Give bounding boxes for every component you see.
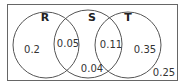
set-label-s: S: [88, 11, 96, 24]
set-label-r: R: [41, 11, 50, 24]
venn-diagram: R S T 0.2 0.05 0.11 0.35 0.04 0.25: [0, 0, 184, 84]
region-s-only: 0.04: [81, 63, 103, 74]
set-label-t: T: [124, 11, 132, 24]
region-r-and-s: 0.05: [57, 38, 79, 49]
region-t-only: 0.35: [134, 44, 156, 55]
region-s-and-t: 0.11: [100, 39, 122, 50]
region-outside: 0.25: [153, 67, 175, 78]
region-r-only: 0.2: [24, 44, 40, 55]
